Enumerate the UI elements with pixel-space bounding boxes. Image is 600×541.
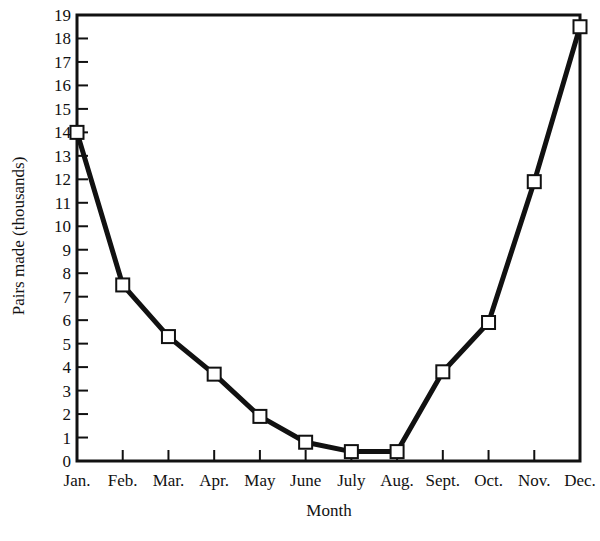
y-tick-label: 17 [54, 53, 72, 72]
x-tick-label: Dec. [564, 471, 596, 490]
data-point-marker [71, 126, 84, 139]
data-point-marker [436, 365, 449, 378]
y-tick-label: 4 [63, 358, 72, 377]
y-tick-label: 5 [63, 335, 72, 354]
y-tick-label: 16 [54, 76, 71, 95]
y-tick-label: 6 [63, 311, 72, 330]
x-tick-label: July [337, 471, 366, 490]
y-tick-label: 15 [54, 100, 71, 119]
data-point-marker [253, 410, 266, 423]
y-axis-label: Pairs made (thousands) [9, 157, 28, 316]
y-tick-label: 0 [63, 452, 72, 471]
x-tick-label: Jan. [64, 471, 91, 490]
x-tick-label: Nov. [518, 471, 550, 490]
y-tick-label: 8 [63, 264, 72, 283]
x-tick-label: May [244, 471, 276, 490]
data-point-marker [116, 278, 129, 291]
plot-border [77, 15, 580, 461]
data-point-marker [162, 330, 175, 343]
line-chart: 012345678910111213141516171819 Jan.Feb.M… [0, 0, 600, 541]
y-tick-label: 11 [55, 194, 71, 213]
plot-frame [77, 15, 580, 461]
y-tick-label: 14 [54, 123, 72, 142]
y-axis: 012345678910111213141516171819 [54, 6, 88, 471]
y-tick-label: 19 [54, 6, 71, 25]
x-axis: Jan.Feb.Mar.Apr.MayJuneJulyAug.Sept.Oct.… [64, 450, 596, 490]
y-tick-label: 10 [54, 217, 71, 236]
data-point-marker [208, 368, 221, 381]
x-tick-label: Feb. [108, 471, 138, 490]
data-point-marker [299, 436, 312, 449]
y-tick-label: 2 [63, 405, 72, 424]
y-tick-label: 7 [63, 288, 72, 307]
x-axis-label: Month [306, 501, 352, 520]
y-tick-label: 12 [54, 170, 71, 189]
y-tick-label: 13 [54, 147, 71, 166]
x-tick-label: Mar. [153, 471, 185, 490]
y-tick-label: 1 [63, 429, 72, 448]
data-point-marker [482, 316, 495, 329]
x-tick-label: Apr. [199, 471, 229, 490]
data-point-marker [574, 20, 587, 33]
data-point-marker [391, 445, 404, 458]
series-line [77, 27, 580, 452]
x-tick-label: Oct. [474, 471, 503, 490]
data-point-marker [528, 175, 541, 188]
x-tick-label: Sept. [426, 471, 460, 490]
data-point-marker [345, 445, 358, 458]
y-tick-label: 18 [54, 29, 71, 48]
data-series [71, 20, 587, 458]
y-tick-label: 9 [63, 241, 72, 260]
x-tick-label: June [290, 471, 321, 490]
y-tick-label: 3 [63, 382, 72, 401]
x-tick-label: Aug. [380, 471, 414, 490]
